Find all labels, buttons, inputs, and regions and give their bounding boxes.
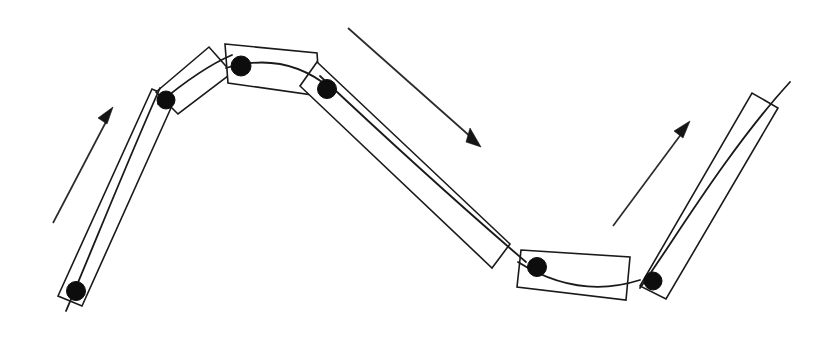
joint-marker-6 bbox=[644, 272, 662, 290]
joint-marker-4 bbox=[318, 80, 337, 99]
figure-canvas bbox=[0, 0, 837, 341]
joint-marker-5 bbox=[528, 258, 547, 277]
joint-marker-3 bbox=[231, 56, 251, 76]
joint-marker-2 bbox=[157, 91, 175, 109]
joint-marker-1 bbox=[67, 282, 86, 301]
line-art-figure bbox=[0, 0, 837, 341]
